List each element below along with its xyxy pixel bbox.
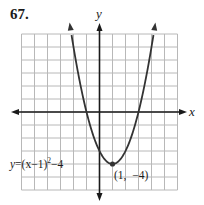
equation-label: y=(x−1)2−4 — [9, 156, 64, 171]
parabola-graph: y x y=(x−1)2−4 (1, −4) — [0, 0, 204, 205]
curve-right-arrow-icon — [151, 22, 157, 30]
x-axis-label: x — [188, 104, 195, 119]
y-axis-bottom-arrow-icon — [97, 193, 103, 201]
curve-left-arrow-icon — [68, 22, 74, 30]
equation-base: (x−1) — [22, 158, 48, 171]
y-axis-top-arrow-icon — [97, 23, 103, 31]
equation-tail: −4 — [51, 158, 63, 170]
vertex-point — [110, 161, 115, 166]
x-axis-left-arrow-icon — [11, 109, 19, 115]
y-axis-label: y — [94, 6, 102, 21]
vertex-label: (1, −4) — [114, 169, 148, 182]
x-axis-right-arrow-icon — [179, 109, 187, 115]
axes — [11, 23, 187, 201]
